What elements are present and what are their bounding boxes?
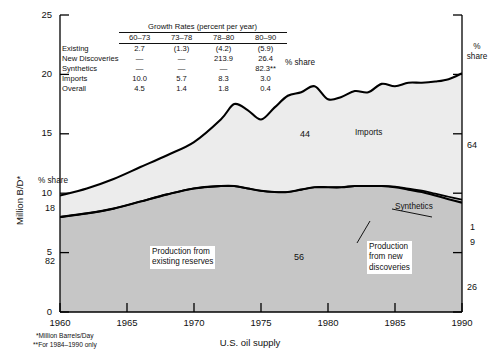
row-label-new-discoveries: New Discoveries <box>62 54 119 64</box>
row-label-synthetics: Synthetics <box>62 64 119 74</box>
x-tick-1965: 1965 <box>107 318 147 329</box>
table-row: Existing 2.7 (1.3) (4.2) (5.9) <box>62 44 287 55</box>
area-bands <box>60 73 462 312</box>
share-label-left: % share <box>36 176 70 186</box>
x-tick-1960: 1960 <box>40 318 80 329</box>
x-tick-1990: 1990 <box>442 318 482 329</box>
left-production-share: 82 <box>45 256 55 266</box>
x-tick-1980: 1980 <box>308 318 348 329</box>
cell-existing-0: 2.7 <box>119 44 161 55</box>
cell-overall-2: 1.8 <box>203 84 245 94</box>
col-header-0: 60–73 <box>119 33 161 44</box>
right-imports-share: 64 <box>467 140 477 150</box>
mid-production-share: 56 <box>294 252 304 262</box>
col-header-2: 78–80 <box>203 33 245 44</box>
x-tick-1970: 1970 <box>174 318 214 329</box>
cell-existing-1: (1.3) <box>161 44 203 55</box>
cell-imports-2: 8.3 <box>203 74 245 84</box>
table-row: Synthetics — — — 82.3** <box>62 64 287 74</box>
cell-newdisc-2: 213.9 <box>203 54 245 64</box>
row-label-imports: Imports <box>62 74 119 84</box>
mid-imports-share: 44 <box>300 129 310 139</box>
cell-synth-1: — <box>161 64 203 74</box>
footnote-line-2: **For 1984–1990 only <box>33 340 97 350</box>
table-row: Imports 10.0 5.7 8.3 3.0 <box>62 74 287 84</box>
cell-synth-2: — <box>203 64 245 74</box>
cell-synth-3: 82.3** <box>245 64 287 74</box>
y-tick-10: 10 <box>30 188 52 199</box>
table-title-row: Growth Rates (percent per year) <box>62 22 287 33</box>
cell-newdisc-0: — <box>119 54 161 64</box>
x-tick-1985: 1985 <box>375 318 415 329</box>
imports-band-label: Imports <box>355 128 382 138</box>
cell-overall-0: 4.5 <box>119 84 161 94</box>
cell-imports-0: 10.0 <box>119 74 161 84</box>
left-imports-share: 18 <box>45 203 55 213</box>
synthetics-label: Synthetics <box>395 202 433 212</box>
row-label-existing: Existing <box>62 44 119 55</box>
cell-newdisc-1: — <box>161 54 203 64</box>
cell-overall-1: 1.4 <box>161 84 203 94</box>
table-header-row: 60–73 73–78 78–80 80–90 <box>62 33 287 44</box>
col-header-3: 80–90 <box>245 33 287 44</box>
col-header-1: 73–78 <box>161 33 203 44</box>
y-tick-25: 25 <box>30 10 52 21</box>
cell-imports-1: 5.7 <box>161 74 203 84</box>
new-discoveries-label: Production from new discoveries <box>367 241 412 274</box>
y-tick-15: 15 <box>30 128 52 139</box>
row-label-overall: Overall <box>62 84 119 94</box>
cell-newdisc-3: 26.4 <box>245 54 287 64</box>
cell-existing-2: (4.2) <box>203 44 245 55</box>
existing-reserves-label: Production from existing reserves <box>150 246 215 269</box>
y-axis-title: Million B/D* <box>14 176 25 225</box>
share-label-right: % share <box>462 42 490 62</box>
share-label-top: % share <box>283 58 317 68</box>
right-existing-share: 26 <box>467 282 477 292</box>
cell-synth-0: — <box>119 64 161 74</box>
right-new-discoveries-share: 9 <box>470 237 475 247</box>
table-row: New Discoveries — — 213.9 26.4 <box>62 54 287 64</box>
growth-rates-table: Growth Rates (percent per year) 60–73 73… <box>62 22 287 94</box>
growth-table-title: Growth Rates (percent per year) <box>119 22 287 33</box>
x-tick-1975: 1975 <box>241 318 281 329</box>
cell-imports-3: 3.0 <box>245 74 287 84</box>
right-synthetics-share: 1 <box>470 222 475 232</box>
y-tick-20: 20 <box>30 69 52 80</box>
chart-container: Million B/D* 25 20 15 10 5 0 1960 1965 1… <box>0 0 490 357</box>
chart-caption: U.S. oil supply <box>195 338 305 349</box>
table-row: Overall 4.5 1.4 1.8 0.4 <box>62 84 287 94</box>
cell-overall-3: 0.4 <box>245 84 287 94</box>
cell-existing-3: (5.9) <box>245 44 287 55</box>
